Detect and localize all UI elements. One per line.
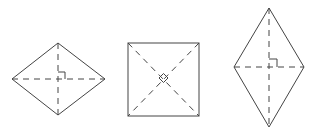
tall-rhombus <box>234 8 304 127</box>
right-angle-mark-icon <box>159 74 168 83</box>
square <box>128 43 199 116</box>
quadrilaterals-diagram <box>0 0 316 136</box>
wide-rhombus <box>12 43 105 115</box>
right-angle-mark-icon <box>58 72 65 79</box>
right-angle-mark-icon <box>269 59 277 67</box>
